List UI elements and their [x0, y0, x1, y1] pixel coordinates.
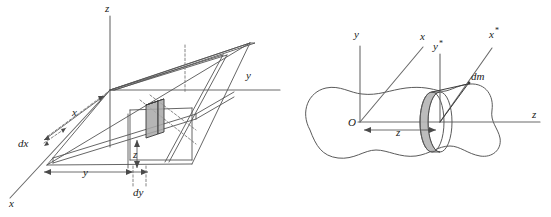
differential-element-side	[158, 99, 164, 134]
slab-inner-upper-line-2	[114, 55, 227, 90]
svg-text:x: x	[488, 28, 494, 40]
slab-slice-bottom-line	[53, 119, 196, 163]
rigid-body-outline	[306, 84, 501, 158]
label-dx-dim: dx	[18, 137, 29, 149]
label-left-y-axis: y	[245, 69, 251, 81]
z-dim-arrow-up	[134, 140, 140, 147]
label-z-dim: z	[132, 148, 138, 160]
dy-dim-arrow-right	[141, 169, 148, 175]
right-x-axis	[360, 47, 423, 122]
right-z-dim-arrow-right	[429, 127, 436, 133]
label-right-x-axis: x	[419, 30, 425, 42]
y-dim-arrow-left	[44, 169, 51, 175]
slab-inner-upper-line	[110, 55, 223, 90]
right-diagram-svg: y x y * x * z O dm z	[280, 0, 551, 217]
label-dy-dim: dy	[133, 186, 144, 198]
label-dm-element: dm	[471, 70, 485, 82]
label-left-z-axis: z	[104, 2, 110, 14]
slab-top-back-left	[110, 43, 250, 90]
right-diagram: y x y * x * z O dm z	[280, 0, 551, 217]
svg-text:*: *	[439, 39, 443, 48]
slab-slice-top-extend	[196, 92, 234, 114]
label-x-dim: x	[71, 106, 77, 118]
label-origin: O	[348, 116, 356, 128]
svg-text:y: y	[432, 40, 438, 52]
figure-canvas: z y x x dx y dy z	[0, 0, 551, 217]
label-right-z-dim: z	[395, 126, 401, 138]
label-right-y-axis: y	[353, 28, 359, 40]
svg-text:*: *	[495, 26, 499, 35]
left-diagram-svg: z y x x dx y dy z	[0, 0, 290, 217]
label-right-y-star-axis: y *	[432, 39, 443, 52]
slab-bottom-front-edge	[47, 164, 192, 165]
right-z-dim-arrow-left	[364, 127, 371, 133]
x-dim-dashed-lower	[48, 92, 108, 136]
dx-arrow-head	[61, 128, 66, 133]
dx-arrow-head-2	[44, 141, 49, 146]
y-dim-arrow-right	[126, 169, 133, 175]
label-right-x-star-axis: x *	[488, 26, 499, 40]
label-right-z-axis: z	[531, 108, 537, 120]
slab-left-vertical-edge	[47, 90, 110, 165]
dm-point-marker	[468, 82, 471, 85]
differential-element-front	[146, 101, 158, 138]
label-y-dim: y	[82, 166, 88, 178]
label-left-x-axis: x	[8, 197, 14, 209]
left-diagram: z y x x dx y dy z	[0, 0, 290, 217]
